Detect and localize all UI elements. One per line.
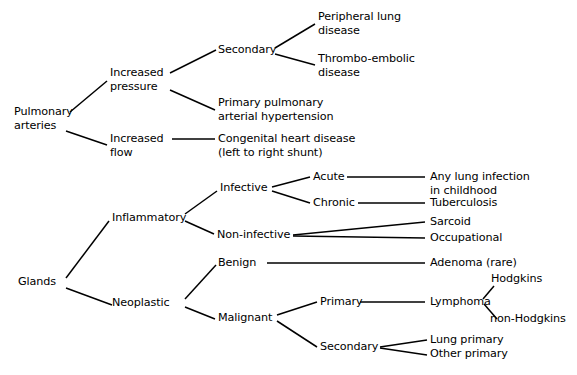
- edge-increased-pressure-to-primary-hypertension: [170, 90, 215, 110]
- node-secondary-malignant[interactable]: Secondary: [320, 340, 378, 354]
- node-tuberculosis[interactable]: Tuberculosis: [430, 196, 497, 210]
- node-lung-primary[interactable]: Lung primary: [430, 333, 503, 347]
- edge-malignant-to-secondary: [277, 321, 317, 347]
- edge-secondary-to-other-primary: [380, 348, 427, 355]
- node-non-hodgkins[interactable]: non-Hodgkins: [490, 312, 566, 326]
- edge-increased-pressure-to-secondary: [170, 50, 216, 73]
- edge-neoplastic-to-benign: [185, 265, 216, 299]
- edge-glands-to-neoplastic: [66, 288, 112, 305]
- node-thrombo-embolic-disease[interactable]: Thrombo-embolic disease: [318, 52, 415, 79]
- node-congenital-heart-disease[interactable]: Congenital heart disease (left to right …: [218, 132, 355, 159]
- node-primary-malignant[interactable]: Primary: [320, 295, 363, 309]
- node-any-lung-infection[interactable]: Any lung infection in childhood: [430, 170, 530, 197]
- node-pulmonary-arteries[interactable]: Pulmonary arteries: [14, 105, 73, 132]
- node-chronic[interactable]: Chronic: [313, 196, 355, 210]
- edge-glands-to-inflammatory: [66, 221, 109, 278]
- edge-malignant-to-primary: [277, 302, 317, 315]
- edge-infective-to-chronic: [272, 191, 310, 203]
- node-neoplastic[interactable]: Neoplastic: [112, 296, 170, 310]
- edge-secondary-to-lung-primary: [380, 340, 427, 347]
- node-non-infective[interactable]: Non-infective: [217, 228, 290, 242]
- node-increased-pressure[interactable]: Increased pressure: [110, 66, 164, 93]
- node-benign[interactable]: Benign: [218, 256, 256, 270]
- edge-pulmonary-to-increased-pressure: [70, 81, 107, 112]
- edge-infective-to-acute: [272, 177, 310, 187]
- edge-non-infective-to-sarcoid: [293, 222, 425, 235]
- node-malignant[interactable]: Malignant: [218, 311, 272, 325]
- node-lymphoma[interactable]: Lymphoma: [430, 295, 491, 309]
- edge-inflammatory-to-non-infective: [185, 221, 214, 234]
- node-glands[interactable]: Glands: [18, 275, 56, 289]
- node-peripheral-lung-disease[interactable]: Peripheral lung disease: [318, 10, 401, 37]
- node-infective[interactable]: Infective: [220, 181, 267, 195]
- node-primary-pulmonary-arterial-hypertension[interactable]: Primary pulmonary arterial hypertension: [218, 96, 333, 123]
- node-occupational[interactable]: Occupational: [430, 231, 502, 245]
- edge-secondary-to-peripheral-lung-disease: [275, 24, 315, 48]
- edge-pulmonary-to-increased-flow: [66, 131, 107, 145]
- node-sarcoid[interactable]: Sarcoid: [430, 215, 471, 229]
- node-secondary-pressure[interactable]: Secondary: [218, 43, 276, 57]
- node-inflammatory[interactable]: Inflammatory: [112, 211, 186, 225]
- edge-inflammatory-to-infective: [185, 191, 217, 214]
- node-adenoma[interactable]: Adenoma (rare): [430, 256, 517, 270]
- node-hodgkins[interactable]: Hodgkins: [491, 272, 542, 286]
- edge-non-infective-to-occupational: [293, 236, 425, 238]
- node-increased-flow[interactable]: Increased flow: [110, 132, 164, 159]
- node-acute[interactable]: Acute: [313, 170, 344, 184]
- edge-neoplastic-to-malignant: [185, 307, 215, 319]
- node-other-primary[interactable]: Other primary: [430, 347, 508, 361]
- tree-diagram-canvas: Pulmonary arteries Increased pressure In…: [0, 0, 577, 375]
- edge-secondary-to-thrombo-embolic: [275, 54, 315, 65]
